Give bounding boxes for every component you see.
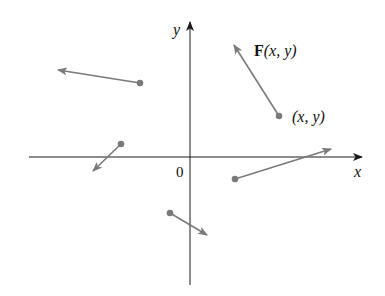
x-axis-label: x (353, 163, 361, 180)
vector-field-diagram: x y 0 F(x, y) (x, y) (0, 0, 385, 296)
vector-arrow (58, 70, 140, 83)
vector-left-axis (93, 141, 124, 171)
y-axis-label: y (171, 21, 181, 39)
base-point-dot (276, 113, 283, 120)
base-point-dot (118, 141, 125, 148)
field-label-args: (x, y) (264, 42, 297, 60)
origin-label: 0 (176, 164, 184, 180)
base-point-dot (137, 80, 144, 87)
field-label-bold: F (254, 42, 264, 59)
vector-arrow (170, 213, 207, 235)
vector-lower (167, 210, 207, 235)
base-point-dot (232, 176, 239, 183)
point-label: (x, y) (292, 108, 325, 126)
base-point-dot (167, 210, 174, 217)
field-label: F(x, y) (254, 42, 297, 60)
vector-arrow (235, 149, 331, 179)
vector-right-axis (232, 149, 331, 182)
vector-group (58, 45, 331, 235)
vector-upper-left (58, 70, 143, 86)
